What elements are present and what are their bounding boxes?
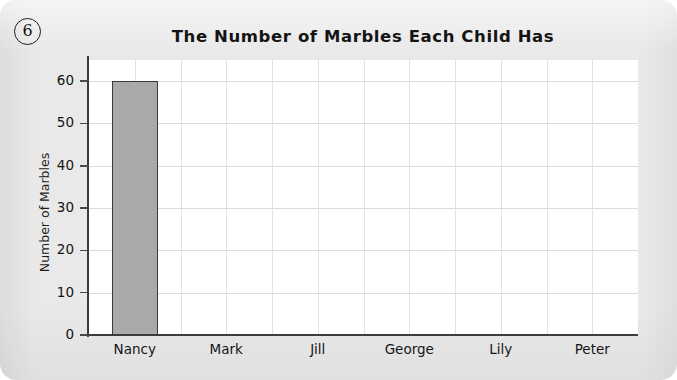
y-axis-tick-label: 50 (40, 114, 74, 130)
y-axis-tick (80, 80, 89, 82)
question-number-badge: 6 (14, 18, 41, 45)
gridline-vertical (409, 60, 410, 335)
bar-nancy (112, 81, 158, 335)
y-axis-tick-label: 40 (40, 157, 74, 173)
gridline-vertical (226, 60, 227, 335)
y-axis-tick (80, 292, 89, 294)
x-axis-line (87, 334, 638, 336)
y-axis-tick (80, 123, 89, 125)
y-axis-tick (80, 250, 89, 252)
y-axis-tick (80, 334, 89, 336)
y-axis-tick-label: 60 (40, 72, 74, 88)
y-axis-tick-label: 30 (40, 199, 74, 215)
gridline-vertical (364, 60, 365, 335)
plot-area (89, 60, 638, 335)
gridline-vertical (592, 60, 593, 335)
gridline-vertical (318, 60, 319, 335)
y-axis-line (87, 56, 89, 337)
gridline-vertical (501, 60, 502, 335)
gridline-vertical (547, 60, 548, 335)
gridline-vertical (455, 60, 456, 335)
chart-title: The Number of Marbles Each Child Has (88, 27, 638, 46)
x-axis-label-peter: Peter (537, 341, 647, 357)
worksheet-card: 6 The Number of Marbles Each Child Has N… (0, 0, 677, 380)
gridline-vertical (181, 60, 182, 335)
y-axis-tick (80, 207, 89, 209)
y-axis-tick-label: 20 (40, 241, 74, 257)
gridline-vertical (272, 60, 273, 335)
y-axis-tick-label: 10 (40, 284, 74, 300)
y-axis-tick-label: 0 (40, 326, 74, 342)
y-axis-tick (80, 165, 89, 167)
